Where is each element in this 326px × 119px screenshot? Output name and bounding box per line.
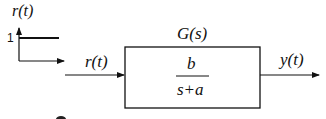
diagram-canvas xyxy=(0,0,326,119)
step-plot-ylabel: r(t) xyxy=(12,2,33,20)
output-signal-label: y(t) xyxy=(280,50,304,70)
step-plot-axes xyxy=(19,28,64,61)
block-name-label: G(s) xyxy=(177,24,207,44)
tf-denominator: s+a xyxy=(177,80,204,100)
tf-numerator: b xyxy=(187,54,196,74)
cropped-glyph xyxy=(56,116,66,119)
step-level-label: 1 xyxy=(7,31,14,45)
input-signal-label: r(t) xyxy=(85,52,108,72)
